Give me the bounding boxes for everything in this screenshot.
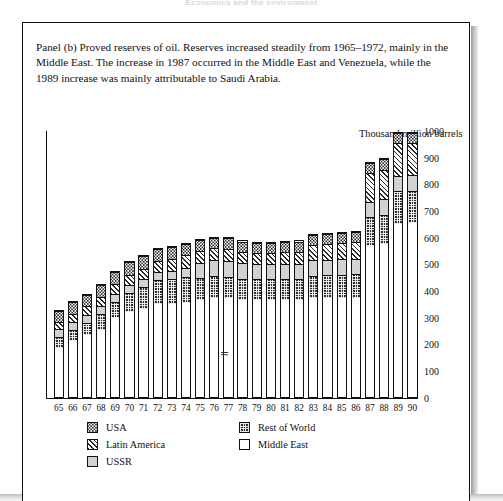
bar-89[interactable] xyxy=(393,132,403,397)
bar-84[interactable] xyxy=(322,233,332,398)
bar-81[interactable] xyxy=(280,241,290,398)
bar-71[interactable] xyxy=(138,255,148,397)
bar-88[interactable] xyxy=(379,158,389,397)
x-tick-88: 88 xyxy=(377,403,391,413)
x-tick-87: 87 xyxy=(363,403,377,413)
x-tick-70: 70 xyxy=(122,403,136,413)
x-tick-68: 68 xyxy=(94,403,108,413)
running-head: Economics and the environment xyxy=(0,0,503,6)
segment-usa-69 xyxy=(111,272,119,284)
segment-middle_east-79 xyxy=(253,300,261,397)
segment-ussr-70 xyxy=(125,285,133,293)
segment-usa-81 xyxy=(281,242,289,252)
segment-usa-78 xyxy=(238,242,246,253)
segment-usa-79 xyxy=(253,243,261,253)
bar-86[interactable] xyxy=(351,231,361,398)
segment-middle_east-81 xyxy=(281,300,289,397)
segment-usa-65 xyxy=(55,311,63,322)
segment-ussr-87 xyxy=(366,202,374,217)
segment-ussr-76 xyxy=(210,260,218,276)
segment-latin_america-67 xyxy=(83,306,91,315)
bar-69[interactable] xyxy=(110,271,120,398)
bar-77[interactable] xyxy=(223,237,233,397)
segment-rest_of_world-80 xyxy=(267,279,275,300)
segment-usa-67 xyxy=(83,295,91,307)
y-tick-600: 600 xyxy=(424,232,439,243)
legend-item-middle-east[interactable]: Middle East xyxy=(239,436,315,453)
x-tick-83: 83 xyxy=(306,403,320,413)
segment-latin_america-71 xyxy=(139,269,147,280)
segment-ussr-73 xyxy=(168,271,176,279)
bar-66[interactable] xyxy=(68,301,78,397)
segment-usa-89 xyxy=(394,133,402,143)
bar-72[interactable] xyxy=(153,248,163,398)
y-tick-100: 100 xyxy=(424,366,439,377)
bar-73[interactable] xyxy=(167,246,177,398)
x-tick-85: 85 xyxy=(335,403,349,413)
bar-87[interactable] xyxy=(365,162,375,398)
x-tick-79: 79 xyxy=(250,403,264,413)
legend-swatch-usa-icon xyxy=(87,422,98,433)
bar-79[interactable] xyxy=(252,242,262,398)
segment-ussr-90 xyxy=(408,175,416,190)
x-axis-line xyxy=(46,398,418,399)
x-tick-73: 73 xyxy=(165,403,179,413)
legend-item-rest-of-world[interactable]: Rest of World xyxy=(239,419,315,436)
legend-item-ussr[interactable]: USSR xyxy=(87,453,165,470)
segment-middle_east-76 xyxy=(210,298,218,397)
legend-item-usa[interactable]: USA xyxy=(87,419,165,436)
segment-middle_east-71 xyxy=(139,309,147,397)
x-tick-74: 74 xyxy=(179,403,193,413)
bar-65[interactable] xyxy=(54,310,64,398)
bar-82[interactable] xyxy=(294,240,304,397)
x-tick-77: 77 xyxy=(221,403,235,413)
plot-area: 01002003004005006007008009001000 6566676… xyxy=(46,131,418,399)
x-tick-67: 67 xyxy=(80,403,94,413)
x-tick-66: 66 xyxy=(66,403,80,413)
bar-74[interactable] xyxy=(181,243,191,398)
segment-ussr-66 xyxy=(69,322,77,330)
segment-middle_east-88 xyxy=(380,244,388,397)
bar-76[interactable] xyxy=(209,237,219,398)
segment-usa-83 xyxy=(309,235,317,245)
segment-usa-88 xyxy=(380,159,388,169)
segment-latin_america-72 xyxy=(154,261,162,272)
legend-label: Latin America xyxy=(106,439,165,450)
segment-latin_america-69 xyxy=(111,284,119,294)
x-tick-72: 72 xyxy=(151,403,165,413)
segment-middle_east-90 xyxy=(408,223,416,396)
bar-78[interactable] xyxy=(237,240,247,397)
segment-latin_america-65 xyxy=(55,322,63,329)
legend-item-latin-america[interactable]: Latin America xyxy=(87,436,165,453)
segment-usa-77 xyxy=(224,238,232,249)
segment-usa-71 xyxy=(139,256,147,268)
segment-middle_east-89 xyxy=(394,224,402,397)
bar-85[interactable] xyxy=(337,232,347,398)
segment-latin_america-73 xyxy=(168,259,176,271)
bar-90[interactable] xyxy=(407,132,417,398)
page-shadow-right xyxy=(471,26,478,501)
segment-rest_of_world-83 xyxy=(309,276,317,298)
bar-67[interactable] xyxy=(82,294,92,398)
bar-80[interactable] xyxy=(266,242,276,398)
segment-ussr-69 xyxy=(111,294,119,302)
bar-68[interactable] xyxy=(96,284,106,397)
bar-75[interactable] xyxy=(195,239,205,397)
segment-rest_of_world-79 xyxy=(253,279,261,300)
bar-70[interactable] xyxy=(124,261,134,397)
y-tick-1000: 1000 xyxy=(424,126,444,137)
y-tick-700: 700 xyxy=(424,206,439,217)
bar-83[interactable] xyxy=(308,234,318,398)
segment-middle_east-69 xyxy=(111,318,119,397)
segment-usa-84 xyxy=(323,234,331,244)
segment-rest_of_world-73 xyxy=(168,279,176,304)
segment-rest_of_world-88 xyxy=(380,215,388,244)
segment-middle_east-67 xyxy=(83,335,91,397)
segment-latin_america-90 xyxy=(408,143,416,176)
segment-middle_east-65 xyxy=(55,348,63,397)
segment-middle_east-74 xyxy=(182,303,190,396)
segment-ussr-65 xyxy=(55,329,63,337)
x-tick-89: 89 xyxy=(391,403,405,413)
segment-rest_of_world-87 xyxy=(366,217,374,246)
segment-usa-75 xyxy=(196,240,204,251)
